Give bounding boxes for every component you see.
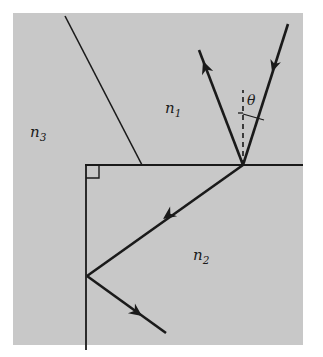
medium-label-n1-base: n <box>165 99 175 117</box>
optics-ray-diagram: n1 n2 n3 θ <box>0 0 323 357</box>
figure-root: n1 n2 n3 θ <box>0 0 323 357</box>
angle-label-theta: θ <box>247 92 256 108</box>
medium-label-n1-sub: 1 <box>175 107 182 119</box>
medium-label-n2-sub: 2 <box>202 254 210 266</box>
medium-label-n3-base: n <box>30 123 40 141</box>
medium-label-n3-sub: 3 <box>40 131 47 143</box>
gray-medium-block <box>13 13 303 345</box>
medium-label-n2-base: n <box>193 246 203 264</box>
